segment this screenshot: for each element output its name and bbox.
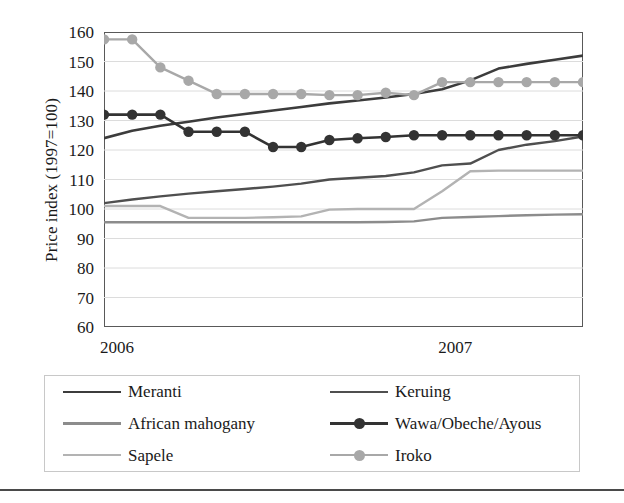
data-point-marker	[550, 130, 560, 140]
y-tick-label: 120	[48, 142, 94, 159]
data-point-marker	[550, 77, 560, 87]
y-tick-label: 100	[48, 201, 94, 218]
legend-marker-icon	[354, 418, 365, 429]
series-line-meranti	[104, 56, 583, 139]
data-point-marker	[183, 75, 193, 85]
legend-label: Iroko	[395, 447, 432, 464]
legend-swatch-icon	[330, 385, 388, 399]
y-tick-label: 90	[48, 231, 94, 248]
legend-item-meranti[interactable]: Meranti	[45, 383, 312, 400]
legend-item-sapele[interactable]: Sapele	[45, 447, 312, 464]
legend-marker-icon	[354, 450, 365, 461]
y-tick-label: 140	[48, 83, 94, 100]
y-tick-label: 160	[48, 24, 94, 41]
data-point-marker	[324, 135, 334, 145]
data-point-marker	[465, 77, 475, 87]
data-point-marker	[409, 90, 419, 100]
data-point-marker	[352, 90, 362, 100]
data-point-marker	[296, 89, 306, 99]
legend-swatch-icon	[63, 416, 121, 430]
data-point-marker	[155, 62, 165, 72]
y-tick-label: 60	[48, 319, 94, 336]
data-point-marker	[437, 130, 447, 140]
y-tick-label: 80	[48, 260, 94, 277]
legend-swatch-icon	[63, 385, 121, 399]
data-point-marker	[212, 127, 222, 137]
data-point-marker	[578, 130, 583, 140]
legend-label: Meranti	[128, 383, 182, 400]
price-index-line-chart-figure: Price index (1997=100) 16015014013012011…	[0, 0, 624, 503]
data-point-marker	[212, 89, 222, 99]
data-point-marker	[268, 142, 278, 152]
legend-label: Sapele	[128, 447, 173, 464]
data-point-marker	[578, 77, 583, 87]
data-point-marker	[104, 34, 109, 44]
data-point-marker	[493, 77, 503, 87]
chart-legend: MerantiKeruingAfrican mahoganyWawa/Obech…	[44, 375, 580, 472]
x-tick-label: 2006	[100, 338, 134, 358]
y-tick-label: 70	[48, 290, 94, 307]
data-point-marker	[493, 130, 503, 140]
legend-item-iroko[interactable]: Iroko	[312, 447, 579, 464]
data-point-marker	[240, 89, 250, 99]
data-point-marker	[183, 127, 193, 137]
data-series-layer	[104, 34, 583, 222]
legend-line-icon	[63, 454, 121, 456]
legend-item-keruing[interactable]: Keruing	[312, 383, 579, 400]
data-point-marker	[155, 109, 165, 119]
y-tick-label: 150	[48, 54, 94, 71]
legend-label: Keruing	[395, 383, 451, 400]
data-point-marker	[521, 77, 531, 87]
legend-item-wawa-obeche-ayous[interactable]: Wawa/Obeche/Ayous	[312, 415, 579, 432]
data-point-marker	[240, 127, 250, 137]
series-line-wawa-obeche-ayous	[104, 115, 583, 147]
data-point-marker	[127, 34, 137, 44]
data-point-marker	[521, 130, 531, 140]
y-tick-label: 130	[48, 113, 94, 130]
page-bottom-rule	[0, 489, 624, 491]
legend-swatch-icon	[330, 448, 388, 462]
chart-series-canvas	[104, 32, 583, 327]
series-line-african-mahogany	[104, 214, 583, 222]
data-point-marker	[465, 130, 475, 140]
legend-swatch-icon	[63, 448, 121, 462]
data-point-marker	[381, 88, 391, 98]
data-point-marker	[296, 142, 306, 152]
chart-plot-region: Price index (1997=100) 16015014013012011…	[0, 0, 624, 360]
legend-swatch-icon	[330, 416, 388, 430]
legend-line-icon	[63, 422, 121, 424]
y-tick-label: 110	[48, 172, 94, 189]
x-tick-label: 2007	[438, 338, 472, 358]
legend-label: African mahogany	[128, 415, 255, 432]
legend-line-icon	[330, 391, 388, 393]
data-point-marker	[409, 130, 419, 140]
data-point-marker	[381, 132, 391, 142]
y-axis-tick-labels: 16015014013012011010090807060	[44, 0, 94, 360]
legend-line-icon	[63, 391, 121, 393]
data-point-marker	[268, 89, 278, 99]
data-point-marker	[352, 133, 362, 143]
data-point-marker	[324, 90, 334, 100]
legend-label: Wawa/Obeche/Ayous	[395, 415, 541, 432]
data-point-marker	[437, 77, 447, 87]
legend-item-african-mahogany[interactable]: African mahogany	[45, 415, 312, 432]
data-point-marker	[127, 109, 137, 119]
data-point-marker	[104, 109, 109, 119]
